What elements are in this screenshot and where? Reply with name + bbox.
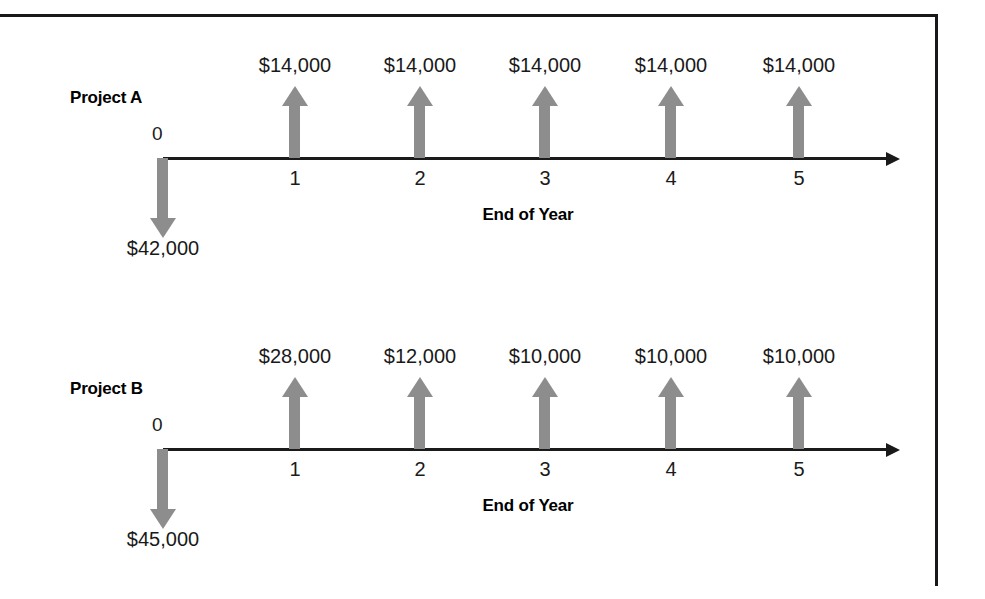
project-a-year-tick-5: 5	[779, 168, 819, 188]
project-b-inflow-arrow-3-icon	[524, 377, 566, 449]
project-b-origin-label: 0	[152, 415, 163, 434]
project-b-axis-arrowhead-icon	[886, 443, 900, 457]
project-b-year-tick-2: 2	[400, 459, 440, 479]
project-b-year-tick-1: 1	[275, 459, 315, 479]
project-b-inflow-arrow-5-icon	[778, 377, 820, 449]
project-a-outflow-arrow-icon	[142, 158, 184, 238]
project-b-year-tick-5: 5	[779, 459, 819, 479]
project-b-title: Project B	[70, 379, 143, 399]
project-a-year-tick-4: 4	[651, 168, 691, 188]
project-a-year-tick-1: 1	[275, 168, 315, 188]
project-a-inflow-arrow-5-icon	[778, 86, 820, 158]
project-a-title: Project A	[70, 88, 142, 108]
project-a-axis-caption: End of Year	[408, 205, 648, 225]
project-b-year-tick-3: 3	[525, 459, 565, 479]
project-a-origin-label: 0	[152, 124, 163, 143]
project-a-inflow-arrow-1-icon	[274, 86, 316, 158]
project-a-block: Project A 0 $42,000 $14,000 1 $14,000 2 …	[0, 0, 985, 300]
project-a-outflow-amount: $42,000	[83, 238, 243, 258]
project-b-axis-caption: End of Year	[408, 496, 648, 516]
project-b-inflow-arrow-2-icon	[399, 377, 441, 449]
project-b-block: Project B 0 $45,000 $28,000 1 $12,000 2 …	[0, 291, 985, 591]
project-a-inflow-arrow-3-icon	[524, 86, 566, 158]
project-b-outflow-arrow-icon	[142, 449, 184, 529]
project-a-axis-arrowhead-icon	[886, 152, 900, 166]
project-b-year-tick-4: 4	[651, 459, 691, 479]
project-a-inflow-arrow-4-icon	[650, 86, 692, 158]
project-b-outflow-amount: $45,000	[83, 529, 243, 549]
project-b-inflow-amount-5: $10,000	[719, 346, 879, 366]
project-a-inflow-arrow-2-icon	[399, 86, 441, 158]
project-a-year-tick-2: 2	[400, 168, 440, 188]
project-a-inflow-amount-5: $14,000	[719, 55, 879, 75]
project-b-inflow-arrow-4-icon	[650, 377, 692, 449]
project-b-inflow-arrow-1-icon	[274, 377, 316, 449]
project-a-year-tick-3: 3	[525, 168, 565, 188]
cash-flow-diagram-page: Project A 0 $42,000 $14,000 1 $14,000 2 …	[0, 0, 985, 599]
